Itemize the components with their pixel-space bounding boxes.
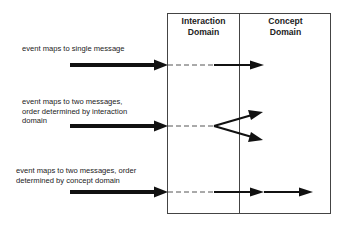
case-2-label: event maps to two messages, order determ… <box>22 97 127 126</box>
label-line: domain <box>22 116 127 126</box>
label-line: event maps to single message <box>22 44 125 54</box>
event-arrow-icon <box>70 187 168 198</box>
case-1-label: event maps to single message <box>22 44 125 54</box>
message-arrow-second-icon <box>264 188 313 197</box>
heading-line: Domain <box>168 27 239 38</box>
message-arrow-up-icon <box>214 110 263 126</box>
message-arrow-down-icon <box>214 126 263 142</box>
heading-line: Domain <box>240 27 331 38</box>
interaction-domain-heading: Interaction Domain <box>168 16 239 38</box>
label-line: event maps to two messages, order <box>16 166 136 176</box>
label-line: determined by concept domain <box>16 176 136 186</box>
case-3-label: event maps to two messages, order determ… <box>16 166 136 185</box>
heading-line: Concept <box>240 16 331 27</box>
label-line: event maps to two messages, <box>22 97 127 107</box>
concept-domain-heading: Concept Domain <box>240 16 331 38</box>
heading-line: Interaction <box>168 16 239 27</box>
domain-box <box>168 14 331 214</box>
case-3-arrows <box>70 187 313 198</box>
event-arrow-icon <box>70 60 168 71</box>
label-line: order determined by interaction <box>22 107 127 117</box>
